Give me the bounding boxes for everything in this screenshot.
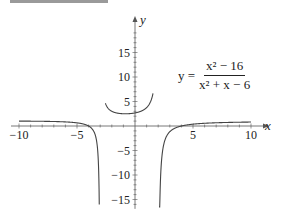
tick-labels: −10−5510−15−10−551015xy	[10, 12, 271, 207]
function-plot: −10−5510−15−10−551015xy	[0, 0, 282, 221]
x-tick-label: −10	[10, 128, 29, 142]
y-tick-label: −5	[117, 144, 130, 158]
curve-branch	[19, 121, 99, 204]
curve-branch	[159, 122, 251, 207]
y-tick-label: 10	[118, 70, 130, 84]
x-tick-label: −5	[71, 128, 84, 142]
y-tick-label: 5	[124, 95, 130, 109]
x-tick-label: 5	[190, 128, 196, 142]
equation-fraction: x² − 16 x² + x − 6	[199, 58, 250, 93]
y-tick-label: −10	[111, 168, 130, 182]
y-axis-label: y	[138, 12, 146, 27]
equation-denominator: x² + x − 6	[199, 76, 250, 93]
y-axis-arrow-icon	[133, 16, 138, 22]
y-tick-label: −15	[111, 193, 130, 207]
equation-numerator: x² − 16	[204, 58, 245, 76]
equation-lhs: y =	[178, 68, 195, 84]
x-axis-label: x	[264, 118, 271, 133]
x-tick-label: 10	[245, 128, 257, 142]
y-tick-label: 15	[118, 46, 130, 60]
axes	[11, 16, 269, 209]
equation-label: y = x² − 16 x² + x − 6	[178, 58, 250, 93]
